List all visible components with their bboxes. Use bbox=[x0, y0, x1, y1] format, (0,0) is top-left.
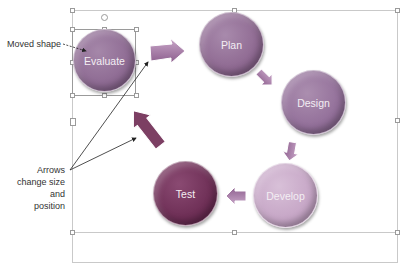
arrow-evaluate-to-plan[interactable] bbox=[150, 38, 185, 63]
callout-arrow-lower bbox=[70, 138, 136, 170]
annotation-arrows: Arrows change size and position bbox=[10, 164, 65, 212]
annotation-line: and bbox=[10, 188, 65, 200]
arrow-design-to-develop[interactable] bbox=[281, 141, 300, 162]
arrow-plan-to-design[interactable] bbox=[253, 66, 278, 91]
annotation-line: change size bbox=[10, 176, 65, 188]
callout-moved-shape bbox=[63, 44, 86, 51]
arrow-develop-to-test[interactable] bbox=[226, 187, 246, 205]
annotation-line: position bbox=[10, 200, 65, 212]
annotation-moved-shape: Moved shape bbox=[7, 38, 61, 50]
arrow-test-to-evaluate[interactable] bbox=[125, 104, 169, 152]
annotation-line: Arrows bbox=[10, 164, 65, 176]
